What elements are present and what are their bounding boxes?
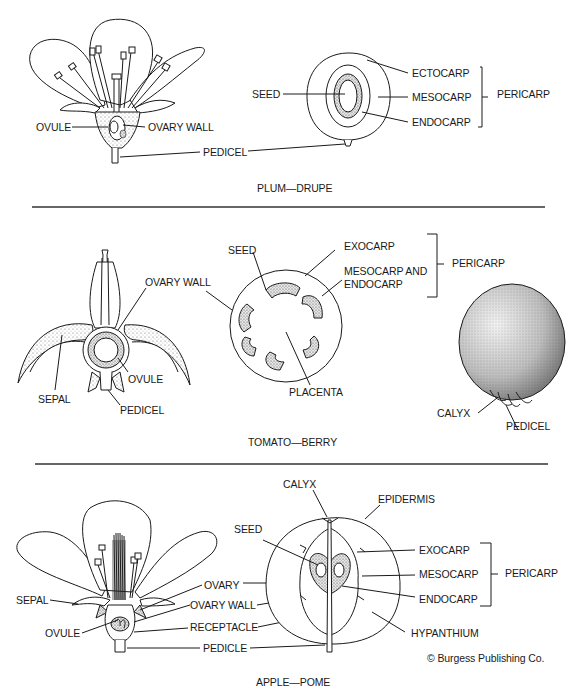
leader-line: [478, 398, 497, 413]
pericarp-bracket: [480, 543, 498, 606]
apple-section: SEPAL OVULE OVARY OVARY WALL RECEPTACLE …: [16, 478, 558, 688]
plum-pedicel-label: PEDICEL: [203, 146, 247, 158]
leader-line: [108, 390, 120, 405]
leader-line: [248, 144, 345, 151]
apple-ovary-label: OVARY: [204, 579, 239, 591]
tomato-exocarp-label: EXOCARP: [344, 240, 395, 252]
apple-caption: APPLE—POME: [256, 676, 330, 688]
leader-line: [118, 288, 146, 330]
apple-seed-label: SEED: [234, 523, 263, 535]
fruit-types-diagram: OVULE OVARY WALL PEDICEL SEED ECTOCARP M…: [0, 0, 577, 698]
apple-calyx-label: CALYX: [283, 478, 316, 490]
tomato-calyx-label: CALYX: [437, 407, 470, 419]
apple-mesocarp-label: MESOCARP: [419, 568, 478, 580]
plum-caption: PLUM—DRUPE: [257, 182, 333, 194]
apple-fruit-cross-section: [266, 518, 400, 652]
apple-hypanthium-label: HYPANTHIUM: [411, 627, 479, 639]
leader-line: [305, 250, 335, 276]
apple-sepal-label: SEPAL: [16, 594, 49, 606]
leader-line: [120, 152, 200, 157]
plum-endocarp-label: ENDOCARP: [412, 116, 471, 128]
apple-endocarp-label: ENDOCARP: [419, 593, 478, 605]
tomato-seed-label: SEED: [228, 244, 257, 256]
pericarp-bracket: [427, 234, 444, 297]
leader-line: [206, 291, 232, 310]
apple-ovule-label: OVULE: [45, 627, 80, 639]
tomato-fruit-cross-section: [230, 270, 342, 382]
apple-receptacle-label: RECEPTACLE: [190, 621, 258, 633]
tomato-caption: TOMATO—BERRY: [248, 436, 337, 448]
leader-line: [250, 645, 325, 648]
leader-line: [50, 600, 78, 604]
pericarp-bracket: [478, 67, 488, 127]
tomato-ovary-wall-label: OVARY WALL: [145, 276, 211, 288]
tomato-whole-pedicel-label: PEDICEL: [506, 420, 550, 432]
tomato-whole-fruit: [459, 284, 565, 406]
plum-seed-label: SEED: [252, 88, 281, 100]
apple-exocarp-label: EXOCARP: [419, 544, 470, 556]
tomato-section: OVARY WALL OVULE SEPAL PEDICEL SEED EXOC…: [18, 234, 565, 448]
plum-mesocarp-label: MESOCARP: [412, 91, 471, 103]
plum-fruit-illustration: [307, 53, 390, 146]
plum-ovule-label: OVULE: [36, 121, 71, 133]
tomato-mesocarp-and-label: MESOCARP AND: [344, 265, 428, 277]
tomato-sepal-label: SEPAL: [38, 393, 71, 405]
leader-line: [134, 628, 188, 632]
plum-pericarp-label: PERICARP: [497, 88, 550, 100]
plum-section: OVULE OVARY WALL PEDICEL SEED ECTOCARP M…: [30, 19, 550, 194]
tomato-pericarp-label: PERICARP: [452, 257, 505, 269]
tomato-flower-illustration: [18, 250, 190, 392]
plum-flower-illustration: [30, 19, 205, 163]
publisher-credit: © Burgess Publishing Co.: [427, 652, 544, 664]
tomato-placenta-label: PLACENTA: [289, 386, 343, 398]
apple-pedicle-label: PEDICLE: [203, 642, 247, 654]
leader-line: [365, 505, 380, 519]
tomato-ovule-label: OVULE: [128, 373, 163, 385]
apple-ovary-wall-label: OVARY WALL: [190, 599, 256, 611]
plum-ovary-wall-label: OVARY WALL: [148, 121, 214, 133]
tomato-pedicel-label: PEDICEL: [120, 404, 164, 416]
tomato-endocarp-label: ENDOCARP: [344, 278, 403, 290]
plum-ectocarp-label: ECTOCARP: [412, 67, 469, 79]
apple-epidermis-label: EPIDERMIS: [378, 493, 435, 505]
leader-line: [313, 490, 327, 517]
apple-pericarp-label: PERICARP: [505, 567, 558, 579]
